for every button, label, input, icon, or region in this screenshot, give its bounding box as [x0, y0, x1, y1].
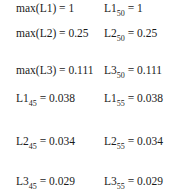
eq-l3-55: L355 = 0.029 [104, 175, 163, 188]
eq-l3-45: L345 = 0.029 [16, 175, 75, 188]
eq-text: max(L1) = 1 [16, 2, 74, 14]
eq-value: = 0.034 [37, 135, 75, 147]
eq-base: L2 [104, 27, 117, 39]
eq-subscript: 50 [117, 34, 125, 43]
eq-l1-45: L145 = 0.038 [16, 92, 75, 105]
eq-base: L3 [104, 175, 117, 187]
eq-base: L1 [16, 92, 29, 104]
eq-subscript: 45 [29, 142, 37, 151]
eq-l3-50: L350 = 0.111 [104, 64, 162, 77]
eq-base: L3 [104, 64, 117, 76]
eq-l1-50: L150 = 1 [104, 2, 143, 15]
eq-l1-55: L155 = 0.038 [104, 92, 163, 105]
eq-value: = 0.029 [125, 175, 163, 187]
eq-subscript: 55 [117, 182, 125, 191]
eq-value: = 0.038 [125, 92, 163, 104]
eq-max-l1: max(L1) = 1 [16, 2, 74, 15]
eq-value: = 0.034 [125, 135, 163, 147]
eq-base: L1 [104, 92, 117, 104]
eq-subscript: 45 [29, 182, 37, 191]
eq-subscript: 45 [29, 99, 37, 108]
eq-l2-55: L255 = 0.034 [104, 135, 163, 148]
eq-value: = 0.029 [37, 175, 75, 187]
eq-subscript: 55 [117, 99, 125, 108]
eq-max-l2: max(L2) = 0.25 [16, 27, 89, 40]
eq-base: L1 [104, 2, 117, 14]
eq-base: L2 [16, 135, 29, 147]
eq-value: = 1 [125, 2, 143, 14]
eq-subscript: 50 [117, 71, 125, 80]
eq-value: = 0.111 [125, 64, 162, 76]
eq-base: L3 [16, 175, 29, 187]
eq-value: = 0.038 [37, 92, 75, 104]
eq-value: = 0.25 [125, 27, 157, 39]
eq-text: max(L2) = 0.25 [16, 27, 89, 39]
eq-l2-45: L245 = 0.034 [16, 135, 75, 148]
eq-subscript: 55 [117, 142, 125, 151]
eq-l2-50: L250 = 0.25 [104, 27, 157, 40]
eq-base: L2 [104, 135, 117, 147]
eq-text: max(L3) = 0.111 [16, 64, 94, 76]
eq-max-l3: max(L3) = 0.111 [16, 64, 94, 77]
eq-subscript: 50 [117, 9, 125, 18]
